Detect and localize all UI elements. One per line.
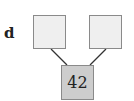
left-child-node (33, 15, 66, 49)
right-child-node (89, 15, 122, 49)
root-node: 42 (61, 65, 94, 100)
panel-label: d (4, 24, 15, 42)
